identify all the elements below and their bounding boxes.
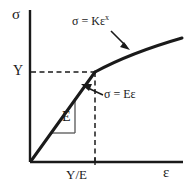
hookes-law-annotation: σ = Eε <box>104 88 136 100</box>
plastic-region-curve <box>95 38 182 72</box>
power-law-exponent-text: x <box>105 13 109 22</box>
modulus-label: E <box>62 110 71 124</box>
diagram-canvas <box>0 0 186 188</box>
x-axis-label: ε <box>163 165 169 180</box>
y-axis-tick-label-yield: Y <box>13 64 23 78</box>
x-axis-tick-label-yield-strain: Y/E <box>66 168 87 181</box>
power-law-base-text: σ = Kε <box>72 14 105 28</box>
power-law-annotation: σ = Kεx <box>72 14 109 27</box>
power-law-arrow-head <box>120 42 130 50</box>
y-axis-label: σ <box>12 7 20 22</box>
stress-strain-diagram: σ ε Y Y/E σ = Kεx σ = Eε E <box>0 0 186 188</box>
